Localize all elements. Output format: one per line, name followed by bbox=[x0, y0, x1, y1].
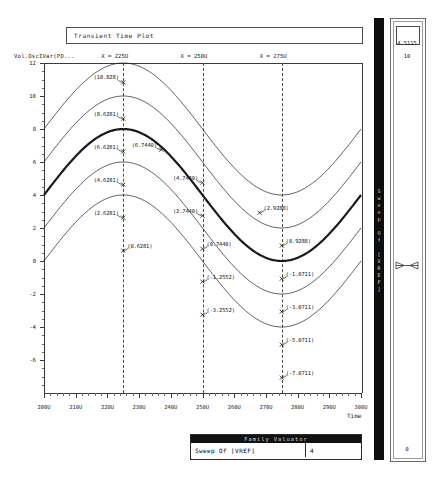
page-title: Transient Time Plot bbox=[67, 32, 154, 39]
x-tick-minor bbox=[183, 393, 184, 396]
y-tick-minor bbox=[42, 137, 44, 138]
y-tick-mark bbox=[40, 162, 44, 163]
x-tick-mark bbox=[298, 393, 299, 398]
y-tick-label: 10 bbox=[14, 93, 36, 99]
x-tick-minor bbox=[133, 393, 134, 396]
y-tick-minor bbox=[42, 236, 44, 237]
x-tick-mark bbox=[266, 393, 267, 398]
x-tick-minor bbox=[304, 393, 305, 396]
annotation-label: (-1.0711) bbox=[286, 271, 314, 277]
x-tick-minor bbox=[190, 393, 191, 396]
x-tick-label: 280U bbox=[283, 404, 313, 410]
x-tick-minor bbox=[260, 393, 261, 396]
cursor-line[interactable] bbox=[123, 63, 124, 393]
plot-title-box: Transient Time Plot bbox=[66, 27, 363, 44]
x-tick-mark bbox=[361, 393, 362, 398]
y-tick-minor bbox=[42, 245, 44, 246]
y-tick-mark bbox=[40, 327, 44, 328]
y-tick-minor bbox=[42, 352, 44, 353]
x-tick-minor bbox=[69, 393, 70, 396]
x-tick-mark bbox=[234, 393, 235, 398]
x-tick-minor bbox=[348, 393, 349, 396]
plot-window: Transient Time Plot Vol.OscIVar(PD... 12… bbox=[0, 0, 437, 487]
y-tick-minor bbox=[42, 187, 44, 188]
annotation-label: (0.7440) bbox=[207, 241, 232, 247]
x-tick-minor bbox=[272, 393, 273, 396]
cursor-label: X = 275U bbox=[260, 53, 287, 59]
y-tick-label: 8 bbox=[14, 126, 36, 132]
x-tick-minor bbox=[228, 393, 229, 396]
y-tick-minor bbox=[42, 385, 44, 386]
y-tick-minor bbox=[42, 220, 44, 221]
x-tick-mark bbox=[171, 393, 172, 398]
x-tick-minor bbox=[114, 393, 115, 396]
x-tick-label: 300U bbox=[346, 404, 376, 410]
sidebar-slider-handle[interactable] bbox=[396, 262, 418, 269]
family-valuator-value[interactable]: 4 bbox=[306, 443, 361, 457]
x-tick-mark bbox=[44, 393, 45, 398]
family-valuator-parameter[interactable]: Sweep Of [VREF] bbox=[191, 443, 306, 457]
x-tick-label: 220U bbox=[92, 404, 122, 410]
annotation-label: (0.9288) bbox=[286, 238, 311, 244]
cursor-line[interactable] bbox=[282, 63, 283, 393]
x-tick-minor bbox=[82, 393, 83, 396]
x-tick-minor bbox=[342, 393, 343, 396]
y-tick-minor bbox=[42, 344, 44, 345]
x-tick-minor bbox=[241, 393, 242, 396]
x-tick-minor bbox=[323, 393, 324, 396]
x-tick-label: 270U bbox=[251, 404, 281, 410]
x-tick-minor bbox=[310, 393, 311, 396]
annotation-label: (8.6281) bbox=[94, 111, 119, 117]
x-axis-label: Time bbox=[347, 412, 361, 419]
y-tick-mark bbox=[40, 261, 44, 262]
family-valuator-panel[interactable]: Family Valuator Sweep Of [VREF] 4 bbox=[190, 434, 362, 460]
family-valuator-row[interactable]: Sweep Of [VREF] 4 bbox=[191, 443, 361, 457]
annotation-label: (-1.2552) bbox=[207, 274, 235, 280]
x-tick-minor bbox=[196, 393, 197, 396]
y-tick-minor bbox=[42, 269, 44, 270]
annotation-label: (-5.0711) bbox=[286, 337, 314, 343]
y-tick-minor bbox=[42, 253, 44, 254]
x-tick-mark bbox=[139, 393, 140, 398]
y-tick-minor bbox=[42, 88, 44, 89]
y-tick-label: 4 bbox=[14, 192, 36, 198]
y-tick-minor bbox=[42, 212, 44, 213]
x-tick-label: 200U bbox=[29, 404, 59, 410]
y-tick-label: -6 bbox=[14, 357, 36, 363]
annotation-label: (-3.0711) bbox=[286, 304, 314, 310]
y-tick-minor bbox=[42, 203, 44, 204]
y-tick-mark bbox=[40, 195, 44, 196]
y-tick-label: 2 bbox=[14, 225, 36, 231]
slider-handle-icon bbox=[396, 262, 418, 269]
y-tick-minor bbox=[42, 311, 44, 312]
x-tick-minor bbox=[279, 393, 280, 396]
x-tick-minor bbox=[336, 393, 337, 396]
y-tick-minor bbox=[42, 146, 44, 147]
x-tick-minor bbox=[158, 393, 159, 396]
y-tick-minor bbox=[42, 154, 44, 155]
annotation-label: (-7.0711) bbox=[286, 370, 314, 376]
y-tick-mark bbox=[40, 63, 44, 64]
y-tick-label: 0 bbox=[14, 258, 36, 264]
x-tick-minor bbox=[120, 393, 121, 396]
y-tick-minor bbox=[42, 113, 44, 114]
x-tick-label: 230U bbox=[124, 404, 154, 410]
x-tick-mark bbox=[76, 393, 77, 398]
y-tick-minor bbox=[42, 278, 44, 279]
annotation-label: (10.828) bbox=[94, 74, 119, 80]
x-tick-minor bbox=[253, 393, 254, 396]
cursor-label: X = 250U bbox=[181, 53, 208, 59]
family-valuator-header: Family Valuator bbox=[191, 435, 361, 443]
x-tick-minor bbox=[95, 393, 96, 396]
x-tick-minor bbox=[291, 393, 292, 396]
x-tick-minor bbox=[145, 393, 146, 396]
x-tick-minor bbox=[177, 393, 178, 396]
y-tick-minor bbox=[42, 302, 44, 303]
y-tick-minor bbox=[42, 377, 44, 378]
x-tick-minor bbox=[152, 393, 153, 396]
y-tick-minor bbox=[42, 104, 44, 105]
y-tick-mark bbox=[40, 294, 44, 295]
cursor-line[interactable] bbox=[203, 63, 204, 393]
x-tick-label: 290U bbox=[314, 404, 344, 410]
x-tick-label: 260U bbox=[219, 404, 249, 410]
